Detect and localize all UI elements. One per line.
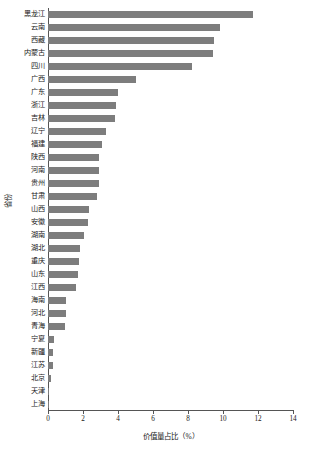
bar-row: 四川	[48, 60, 293, 73]
x-tick-label: 10	[213, 415, 233, 423]
bar-row: 上海	[48, 398, 293, 411]
x-tick-mark	[48, 411, 49, 414]
category-label: 安徽	[1, 216, 45, 229]
bar-row: 辽宁	[48, 125, 293, 138]
category-label: 山东	[1, 268, 45, 281]
bar	[48, 50, 213, 57]
category-label: 江西	[1, 281, 45, 294]
x-tick-label: 2	[73, 415, 93, 423]
bar-row: 浙江	[48, 99, 293, 112]
bar-row: 河南	[48, 164, 293, 177]
category-label: 河南	[1, 164, 45, 177]
bar-row: 新疆	[48, 346, 293, 359]
x-tick-label: 0	[38, 415, 58, 423]
x-axis-title: 价值量占比（%）	[48, 430, 294, 441]
bar-row: 甘肃	[48, 190, 293, 203]
bar-row: 湖北	[48, 242, 293, 255]
bar-row: 吉林	[48, 112, 293, 125]
category-label: 辽宁	[1, 125, 45, 138]
bar	[48, 245, 80, 252]
bar-row: 山西	[48, 203, 293, 216]
bar-row: 黑龙江	[48, 8, 293, 21]
x-tick-mark	[118, 411, 119, 414]
x-tick-mark	[223, 411, 224, 414]
category-label: 福建	[1, 138, 45, 151]
bar-row: 贵州	[48, 177, 293, 190]
bar	[48, 271, 78, 278]
bar	[48, 180, 99, 187]
bar	[48, 258, 79, 265]
bar-row: 福建	[48, 138, 293, 151]
category-label: 西藏	[1, 34, 45, 47]
x-tick-mark	[293, 411, 294, 414]
bar	[48, 37, 214, 44]
category-label: 云南	[1, 21, 45, 34]
bar	[48, 297, 66, 304]
category-label: 海南	[1, 294, 45, 307]
category-label: 黑龙江	[1, 8, 45, 21]
category-label: 上海	[1, 398, 45, 411]
bar-row: 广东	[48, 86, 293, 99]
bar	[48, 375, 51, 382]
bar-row: 湖南	[48, 229, 293, 242]
bar	[48, 11, 253, 18]
x-tick-label: 4	[108, 415, 128, 423]
category-label: 湖北	[1, 242, 45, 255]
category-label: 北京	[1, 372, 45, 385]
bar	[48, 206, 89, 213]
category-label: 陕西	[1, 151, 45, 164]
bar	[48, 388, 49, 395]
bar-row: 江苏	[48, 359, 293, 372]
bar	[48, 115, 115, 122]
bar	[48, 24, 220, 31]
bar-row: 广西	[48, 73, 293, 86]
bar-chart: 省份 黑龙江云南西藏内蒙古四川广西广东浙江吉林辽宁福建陕西河南贵州甘肃山西安徽湖…	[0, 0, 309, 461]
bar	[48, 232, 84, 239]
bar-row: 天津	[48, 385, 293, 398]
x-tick-mark	[258, 411, 259, 414]
bar-row: 河北	[48, 307, 293, 320]
bar-row: 西藏	[48, 34, 293, 47]
bar-row: 重庆	[48, 255, 293, 268]
bar	[48, 336, 54, 343]
bar	[48, 284, 76, 291]
bar	[48, 193, 97, 200]
bar-row: 陕西	[48, 151, 293, 164]
x-tick-mark	[83, 411, 84, 414]
bar-row: 江西	[48, 281, 293, 294]
category-label: 河北	[1, 307, 45, 320]
category-label: 天津	[1, 385, 45, 398]
x-tick-label: 8	[178, 415, 198, 423]
bar	[48, 63, 192, 70]
category-label: 山西	[1, 203, 45, 216]
x-tick-mark	[153, 411, 154, 414]
category-label: 吉林	[1, 112, 45, 125]
bar	[48, 219, 88, 226]
category-label: 广东	[1, 86, 45, 99]
category-label: 青海	[1, 320, 45, 333]
bar-row: 海南	[48, 294, 293, 307]
bar-row: 安徽	[48, 216, 293, 229]
bar-row: 山东	[48, 268, 293, 281]
bar	[48, 323, 65, 330]
bar	[48, 167, 99, 174]
category-label: 贵州	[1, 177, 45, 190]
plot-area: 黑龙江云南西藏内蒙古四川广西广东浙江吉林辽宁福建陕西河南贵州甘肃山西安徽湖南湖北…	[48, 8, 293, 411]
x-tick-label: 6	[143, 415, 163, 423]
bar	[48, 401, 49, 408]
bar	[48, 349, 53, 356]
bar-row: 北京	[48, 372, 293, 385]
category-label: 浙江	[1, 99, 45, 112]
bar	[48, 362, 53, 369]
x-tick-label: 12	[248, 415, 268, 423]
bar-row: 宁夏	[48, 333, 293, 346]
category-label: 内蒙古	[1, 47, 45, 60]
bar-row: 内蒙古	[48, 47, 293, 60]
category-label: 湖南	[1, 229, 45, 242]
bar	[48, 310, 66, 317]
category-label: 广西	[1, 73, 45, 86]
category-label: 宁夏	[1, 333, 45, 346]
bar	[48, 154, 99, 161]
bar	[48, 76, 136, 83]
x-tick-mark	[188, 411, 189, 414]
